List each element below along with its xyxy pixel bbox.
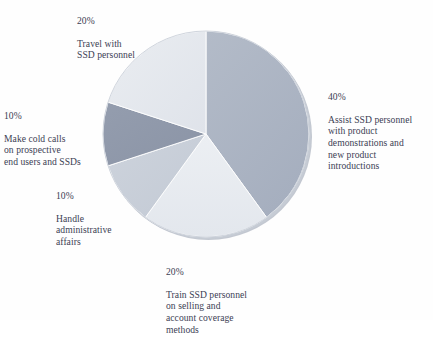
slice-text-train: Train SSD personnel on selling and accou… [166,289,290,335]
slice-label-travel: 20% Travel with SSD personnel [77,3,197,73]
slice-label-assist: 40% Assist SSD personnel with product de… [328,79,433,183]
slice-text-admin: Handle administrative affairs [56,213,148,248]
slice-text-cold-calls: Make cold calls on prospective end users… [4,133,108,168]
slice-percent-train: 20% [166,266,290,278]
slice-percent-assist: 40% [328,91,433,103]
slice-label-train: 20% Train SSD personnel on selling and a… [166,254,290,337]
slice-percent-travel: 20% [77,15,197,27]
slice-percent-admin: 10% [56,190,148,202]
slice-text-assist: Assist SSD personnel with product demons… [328,114,433,172]
slice-label-cold-calls: 10% Make cold calls on prospective end u… [4,98,108,179]
slice-label-admin: 10% Handle administrative affairs [56,178,148,259]
slice-text-travel: Travel with SSD personnel [77,38,197,61]
slice-percent-cold-calls: 10% [4,110,108,122]
